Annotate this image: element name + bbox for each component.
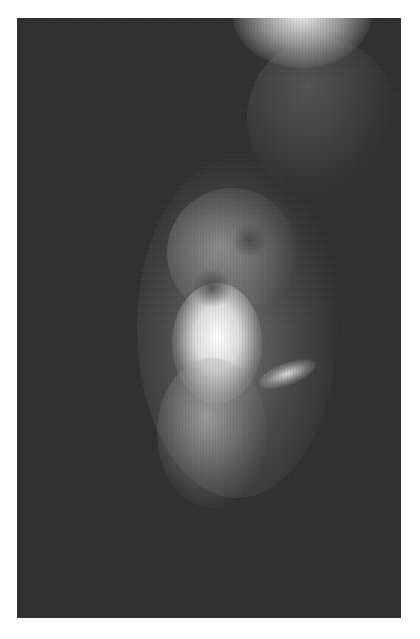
film-grain [17,18,401,618]
xray-image [17,18,401,618]
